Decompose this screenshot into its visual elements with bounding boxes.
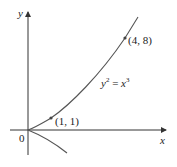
curve-upper-branch	[28, 17, 138, 130]
point-label-1-1: (1, 1)	[55, 116, 79, 127]
x-axis-label: x	[160, 135, 165, 146]
point-4-8	[123, 36, 126, 39]
diagram-canvas	[0, 0, 177, 167]
point-label-4-8: (4, 8)	[128, 35, 152, 46]
curve-lower-branch	[28, 130, 67, 153]
origin-label: 0	[19, 133, 25, 144]
point-1-1	[49, 116, 52, 119]
y-axis-label: y	[18, 8, 23, 19]
equation-label: y2 = x3	[101, 77, 130, 89]
